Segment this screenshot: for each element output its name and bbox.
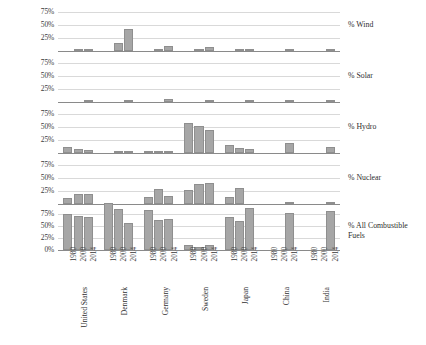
bar-united-states-2014 — [84, 150, 93, 153]
y-axis-tick-label: 50% — [41, 22, 54, 30]
bar-sweden-2014 — [205, 100, 214, 102]
bar-india-2014 — [326, 147, 335, 153]
panel-label: % Wind — [348, 20, 373, 30]
y-axis-tick-label: 50% — [41, 175, 54, 183]
x-axis-country-label-united-states: United States — [81, 287, 89, 328]
x-axis-year-label: 2014 — [172, 247, 179, 261]
x-axis-country-label-sweden: Sweden — [202, 287, 210, 311]
bar-germany-2014 — [164, 219, 173, 250]
multi-panel-bar-chart: 75%50%25%% Wind75%50%25%% Solar75%50%25%… — [0, 0, 426, 345]
bar-japan-2014 — [245, 100, 254, 102]
panel-all-combustible-fuels: 75%50%25%0% — [58, 208, 340, 250]
bar-india-2014 — [326, 202, 335, 204]
bar-denmark-1980 — [104, 203, 113, 251]
bar-denmark-2014 — [124, 151, 133, 153]
y-axis-tick-label: 75% — [41, 60, 54, 68]
bar-denmark-2014 — [124, 100, 133, 102]
x-axis-year-label: 2014 — [212, 247, 219, 261]
bar-sweden-2000 — [194, 49, 203, 51]
bar-japan-2014 — [245, 49, 254, 51]
x-axis-year-label: 2014 — [333, 247, 340, 261]
bar-japan-2014 — [245, 208, 254, 250]
x-axis-year-label: 1980 — [191, 247, 198, 261]
y-axis-tick-label: 25% — [41, 85, 54, 93]
x-axis-year-label: 2014 — [131, 247, 138, 261]
panel-plot-area — [58, 108, 340, 153]
x-axis-country-label-germany: Germany — [162, 287, 170, 315]
bar-china-2014 — [285, 49, 294, 51]
bar-united-states-2000 — [74, 49, 83, 51]
bar-united-states-2000 — [74, 194, 83, 204]
x-axis-year-label: 1980 — [272, 247, 279, 261]
x-axis-year-label: 2000 — [81, 247, 88, 261]
bar-sweden-2000 — [194, 126, 203, 153]
panel-nuclear: 75%50%25% — [58, 159, 340, 204]
bar-germany-2000 — [154, 49, 163, 51]
y-axis-tick-label: 75% — [41, 210, 54, 218]
x-axis-year-label: 2000 — [202, 247, 209, 261]
bar-united-states-2014 — [84, 49, 93, 51]
panel-wind: 75%50%25% — [58, 6, 340, 51]
y-axis-tick-label: 50% — [41, 73, 54, 81]
bar-germany-2014 — [164, 196, 173, 204]
bar-sweden-1980 — [184, 190, 193, 204]
x-axis-country-label-china: China — [283, 287, 291, 305]
x-axis: 198020002014United States198020002014Den… — [58, 247, 340, 345]
x-axis-country-label-denmark: Denmark — [121, 287, 129, 315]
y-axis-tick-label: 75% — [41, 162, 54, 170]
y-axis-tick-label: 50% — [41, 222, 54, 230]
bar-germany-2000 — [154, 220, 163, 251]
panel-plot-area — [58, 57, 340, 102]
panel-plot-area — [58, 208, 340, 250]
bar-germany-1980 — [144, 151, 153, 153]
bar-united-states-2000 — [74, 216, 83, 250]
y-axis-tick-label: 0% — [44, 246, 54, 254]
bar-sweden-2014 — [205, 47, 214, 51]
bar-japan-2000 — [235, 221, 244, 250]
x-axis-year-label: 2014 — [91, 247, 98, 261]
y-axis-tick-label: 50% — [41, 124, 54, 132]
panel-label: % Nuclear — [348, 173, 381, 183]
panel-plot-area — [58, 6, 340, 51]
x-axis-year-label: 1980 — [312, 247, 319, 261]
bar-united-states-1980 — [63, 214, 72, 251]
x-axis-year-label: 2014 — [292, 247, 299, 261]
bar-japan-2000 — [235, 148, 244, 153]
x-axis-year-label: 2000 — [282, 247, 289, 261]
panel-solar: 75%50%25% — [58, 57, 340, 102]
x-axis-year-label: 2000 — [322, 247, 329, 261]
y-axis-tick-label: 25% — [41, 234, 54, 242]
bar-sweden-2014 — [205, 130, 214, 153]
x-axis-year-label: 2000 — [121, 247, 128, 261]
bar-denmark-2000 — [114, 151, 123, 153]
bar-japan-1980 — [225, 197, 234, 205]
panel-label: % All Combustible Fuels — [348, 221, 408, 241]
bar-sweden-1980 — [184, 123, 193, 153]
x-axis-year-label: 2000 — [242, 247, 249, 261]
bar-united-states-1980 — [63, 147, 72, 153]
panel-baseline — [58, 102, 340, 103]
bar-denmark-2014 — [124, 223, 133, 250]
y-axis-tick-label: 75% — [41, 9, 54, 17]
bar-china-2014 — [285, 202, 294, 204]
x-axis-year-label: 1980 — [111, 247, 118, 261]
x-axis-year-label: 1980 — [151, 247, 158, 261]
bar-denmark-2000 — [114, 43, 123, 51]
panel-baseline — [58, 153, 340, 154]
bar-germany-2014 — [164, 46, 173, 51]
bar-germany-1980 — [144, 210, 153, 250]
bar-china-2014 — [285, 213, 294, 250]
bar-germany-2014 — [164, 151, 173, 153]
bar-germany-2014 — [164, 99, 173, 102]
x-axis-country-label-japan: Japan — [242, 287, 250, 304]
y-axis-tick-label: 25% — [41, 136, 54, 144]
bar-china-2014 — [285, 143, 294, 153]
panel-plot-area — [58, 159, 340, 204]
bar-japan-2000 — [235, 49, 244, 51]
panel-label: % Solar — [348, 71, 373, 81]
bar-japan-1980 — [225, 145, 234, 154]
y-axis-tick-label: 25% — [41, 34, 54, 42]
panel-label: % Hydro — [348, 122, 376, 132]
bar-germany-2000 — [154, 151, 163, 153]
bar-japan-2014 — [245, 149, 254, 153]
